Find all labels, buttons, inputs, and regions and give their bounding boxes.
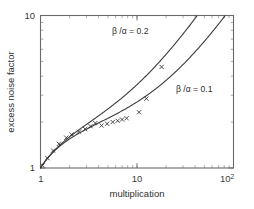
y-tick-label-1: 1 [30, 162, 35, 173]
data-point [100, 123, 104, 127]
data-point [137, 110, 141, 114]
data-point [45, 156, 49, 160]
x-axis-title: multiplication [110, 188, 165, 199]
chart-figure: 10 1 1 10 102 multiplication excess nois… [0, 0, 254, 209]
data-point [144, 97, 148, 101]
curve-series-0 [41, 16, 197, 168]
scatter-marker-group [40, 65, 163, 168]
x-tick-label-1: 1 [38, 173, 43, 184]
annotation-beta-alpha-0-1: β /α = 0.1 [176, 84, 213, 94]
data-point [160, 65, 164, 69]
data-point [116, 119, 120, 123]
x-tick-label-100: 102 [220, 173, 235, 185]
annotation-beta-alpha-0-2: β /α = 0.2 [112, 26, 149, 36]
excess-noise-factor-plot: 10 1 1 10 102 multiplication excess nois… [0, 0, 254, 209]
data-point [105, 122, 109, 126]
y-tick-label-10: 10 [24, 10, 35, 21]
y-axis-title: excess noise factor [5, 51, 16, 132]
x-tick-label-10: 10 [132, 173, 143, 184]
data-point [124, 116, 128, 120]
data-point [120, 117, 124, 121]
data-point [111, 120, 115, 124]
